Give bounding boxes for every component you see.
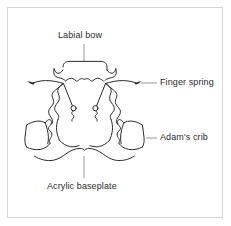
right-retention-wire [106,84,121,125]
adams-crib-left-outer-edge [25,125,27,147]
finger-spring-right-arm [97,84,106,106]
finger-spring-right-free-end [106,81,136,84]
label-finger-spring: Finger spring [160,77,214,88]
baseplate-left-posterior-join [59,140,79,147]
adams-crib-right-top-edge [124,121,143,125]
baseplate-right-posterior-join [90,140,110,147]
adams-crib-right-inner-wire [121,123,124,144]
finger-spring-right-tail [95,111,97,121]
finger-spring-left-arm [64,84,73,106]
baseplate-right-anterior-border [106,84,115,120]
baseplate-right-mid-border [110,119,113,140]
figure-root: Labial bow Finger spring Adam's crib Acr… [0,0,231,226]
adams-crib-right-outer-edge [142,125,144,147]
baseplate-left-mid-border [56,119,59,140]
adams-crib-left-bottom-edge [27,144,50,150]
labial-bow-left-u-loop [54,68,65,80]
appliance-drawing [0,0,231,226]
labial-bow-right-u-loop [105,68,116,80]
finger-spring-tips [28,82,142,85]
finger-spring-right-tip [135,82,142,85]
baseplate-left-anterior-border [55,84,64,120]
left-retention-wire [49,84,64,125]
finger-spring-left-tail [72,111,74,121]
label-labial-bow: Labial bow [58,30,102,41]
adams-crib-left-inner-wire [45,123,48,144]
adams-crib-left-top-edge [27,121,46,125]
finger-spring-left-coil [71,106,76,111]
label-acrylic-baseplate: Acrylic baseplate [47,181,117,192]
finger-spring-left-tip [28,82,35,85]
finger-spring-left-free-end [33,81,63,84]
label-adams-crib: Adam's crib [160,132,208,143]
adams-crib-right-bottom-edge [119,144,142,150]
finger-spring-right-coil [93,106,98,111]
anterior-teeth-outline [65,78,103,81]
labial-bow-wire [63,61,107,70]
